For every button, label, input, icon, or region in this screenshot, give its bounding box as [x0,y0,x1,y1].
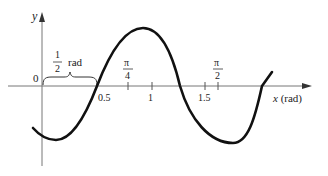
tick-label-1.5: 1.5 [198,92,211,103]
tick-label-0.5: 0.5 [98,92,111,103]
svg-text:π: π [124,57,129,68]
brace-annotation [43,72,97,85]
sine-diagram: y x (rad) 0 0.5 1 1.5 π 4 π 2 1 2 rad [0,0,328,176]
svg-text:π: π [214,57,219,68]
svg-text:rad: rad [68,56,83,68]
origin-label: 0 [33,72,39,84]
half-rad-label: 1 2 rad [53,49,83,74]
svg-text:2: 2 [55,63,60,74]
tick-label-pi-over-2: π 2 [213,57,223,81]
svg-text:2: 2 [215,70,220,81]
svg-text:1: 1 [55,49,60,60]
tick-label-1: 1 [148,92,153,103]
y-axis-arrow-icon [39,12,45,22]
x-axis-arrow-icon [302,83,312,89]
svg-text:4: 4 [125,70,130,81]
x-axis-label: x (rad) [272,92,302,105]
tick-label-pi-over-4: π 4 [123,57,133,81]
y-axis-label: y [31,9,38,23]
